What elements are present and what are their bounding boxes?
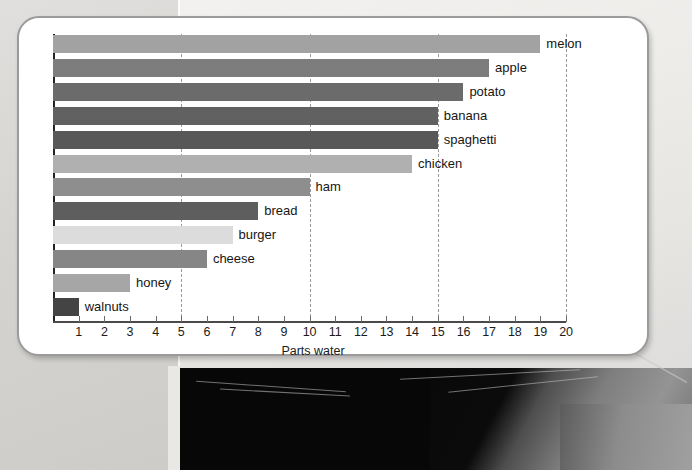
- chart-card: melonapplepotatobananaspaghettichickenha…: [17, 16, 649, 356]
- x-tick-20: [566, 316, 567, 322]
- bar-row: cheese: [53, 250, 686, 268]
- x-tick-label-1: 1: [75, 325, 82, 339]
- bar-row: bread: [53, 202, 686, 220]
- x-axis-title-label: Parts water: [281, 344, 344, 358]
- bar-row: burger: [53, 226, 686, 244]
- x-tick-14: [412, 316, 413, 322]
- bar-label-apple: apple: [495, 60, 527, 75]
- x-tick-2: [104, 316, 105, 322]
- x-tick-13: [386, 316, 387, 322]
- x-tick-label-11: 11: [329, 325, 342, 339]
- bar-chicken[interactable]: [53, 155, 412, 173]
- bar-row: banana: [53, 107, 686, 125]
- bar-bread[interactable]: [53, 202, 258, 220]
- bar-label-spaghetti: spaghetti: [444, 132, 497, 147]
- x-tick-label-13: 13: [380, 325, 394, 339]
- bar-cheese[interactable]: [53, 250, 207, 268]
- x-tick-12: [361, 316, 362, 322]
- x-tick-8: [258, 316, 259, 322]
- bar-honey[interactable]: [53, 274, 130, 292]
- x-tick-label-6: 6: [204, 325, 211, 339]
- x-tick-label-16: 16: [457, 325, 471, 339]
- bar-row: chicken: [53, 155, 686, 173]
- x-tick-label-15: 15: [431, 325, 445, 339]
- x-tick-label-4: 4: [152, 325, 159, 339]
- x-tick-17: [489, 316, 490, 322]
- bar-walnuts[interactable]: [53, 298, 79, 316]
- bar-label-honey: honey: [136, 275, 171, 290]
- bar-label-walnuts: walnuts: [85, 299, 129, 314]
- x-axis-title: Parts water: [19, 344, 651, 358]
- x-tick-11: [335, 316, 336, 322]
- x-tick-10: [310, 316, 311, 322]
- x-tick-label-12: 12: [354, 325, 368, 339]
- bar-ham[interactable]: [53, 178, 310, 196]
- bar-burger[interactable]: [53, 226, 233, 244]
- x-tick-label-10: 10: [303, 325, 317, 339]
- bar-row: apple: [53, 59, 686, 77]
- x-tick-label-20: 20: [559, 325, 573, 339]
- bar-spaghetti[interactable]: [53, 131, 438, 149]
- background-gray-wedge: [560, 404, 692, 470]
- x-tick-5: [181, 316, 182, 322]
- x-tick-4: [156, 316, 157, 322]
- x-tick-label-14: 14: [405, 325, 419, 339]
- x-tick-3: [130, 316, 131, 322]
- x-tick-18: [515, 316, 516, 322]
- x-tick-19: [540, 316, 541, 322]
- x-tick-label-2: 2: [101, 325, 108, 339]
- bar-row: potato: [53, 83, 686, 101]
- x-tick-label-18: 18: [508, 325, 522, 339]
- bar-label-cheese: cheese: [213, 251, 255, 266]
- x-tick-label-17: 17: [482, 325, 496, 339]
- x-tick-16: [463, 316, 464, 322]
- x-tick-15: [438, 316, 439, 322]
- background-paper-sliver: [168, 366, 180, 470]
- x-tick-label-19: 19: [534, 325, 548, 339]
- x-tick-9: [284, 316, 285, 322]
- bar-row: walnuts: [53, 298, 686, 316]
- bar-label-potato: potato: [469, 84, 505, 99]
- x-tick-6: [207, 316, 208, 322]
- bar-row: honey: [53, 274, 686, 292]
- x-tick-label-9: 9: [280, 325, 287, 339]
- bar-melon[interactable]: [53, 35, 540, 53]
- bar-label-chicken: chicken: [418, 156, 462, 171]
- bar-label-melon: melon: [546, 36, 581, 51]
- bar-chart: melonapplepotatobananaspaghettichickenha…: [19, 18, 651, 358]
- bar-label-banana: banana: [444, 108, 487, 123]
- bar-row: melon: [53, 35, 686, 53]
- bar-row: spaghetti: [53, 131, 686, 149]
- bar-label-burger: burger: [239, 227, 277, 242]
- bar-potato[interactable]: [53, 83, 463, 101]
- x-tick-label-8: 8: [255, 325, 262, 339]
- x-tick-1: [79, 316, 80, 322]
- x-tick-7: [233, 316, 234, 322]
- bar-label-ham: ham: [316, 179, 341, 194]
- x-tick-label-3: 3: [127, 325, 134, 339]
- x-tick-label-7: 7: [229, 325, 236, 339]
- bar-apple[interactable]: [53, 59, 489, 77]
- bar-row: ham: [53, 178, 686, 196]
- bar-label-bread: bread: [264, 203, 297, 218]
- x-tick-label-5: 5: [178, 325, 185, 339]
- bar-banana[interactable]: [53, 107, 438, 125]
